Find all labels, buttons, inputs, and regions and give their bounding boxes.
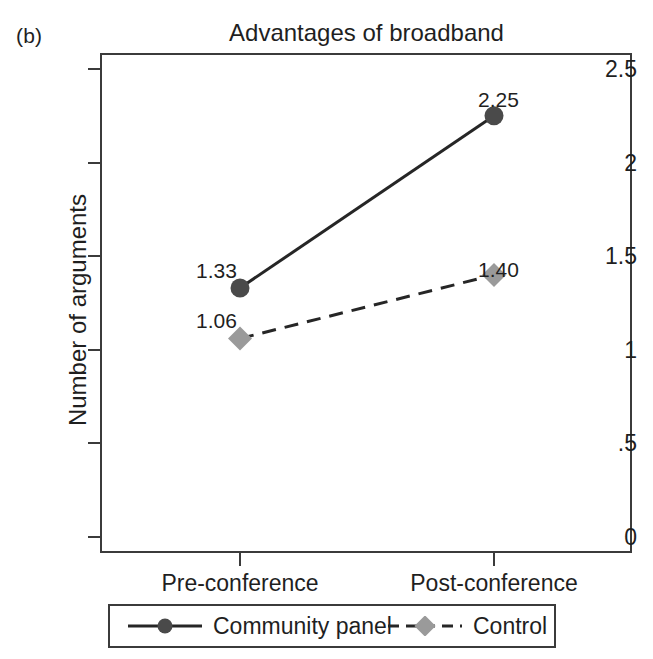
y-tick-label-5: 2.5 <box>549 56 653 83</box>
point-label-community-pre: 1.33 <box>196 259 237 283</box>
panel-label: (b) <box>16 24 42 48</box>
x-tick-mark-0 <box>239 553 241 566</box>
y-tick-label-4: 2 <box>549 150 653 177</box>
y-tick-label-2: 1 <box>549 337 653 364</box>
legend-label-community-panel: Community panel <box>213 613 392 640</box>
legend-label-control: Control <box>473 613 547 640</box>
point-label-community-post: 2.25 <box>478 88 519 112</box>
y-tick-mark-4 <box>88 162 100 164</box>
y-tick-mark-2 <box>88 349 100 351</box>
x-tick-label-1: Post-conference <box>410 570 577 597</box>
y-tick-mark-0 <box>88 536 100 538</box>
chart-figure: (b) Advantages of broadband Number of ar… <box>0 0 653 659</box>
x-tick-label-0: Pre-conference <box>161 570 318 597</box>
legend-entry-control: Control <box>386 606 547 646</box>
y-tick-mark-3 <box>88 255 100 257</box>
y-tick-label-3: 1.5 <box>549 243 653 270</box>
y-tick-label-1: .5 <box>549 430 653 457</box>
chart-legend: Community panel Control <box>108 604 556 648</box>
y-tick-mark-1 <box>88 442 100 444</box>
y-axis-title: Number of arguments <box>64 60 92 560</box>
plot-area <box>100 53 632 553</box>
chart-title: Advantages of broadband <box>100 19 633 47</box>
legend-entry-community-panel: Community panel <box>126 606 392 646</box>
legend-sample-dashed-diamond-icon <box>386 616 464 636</box>
y-tick-label-0: 0 <box>549 524 653 551</box>
y-tick-mark-5 <box>88 68 100 70</box>
point-label-control-post: 1.40 <box>478 258 519 282</box>
x-tick-mark-1 <box>493 553 495 566</box>
legend-sample-solid-circle-icon <box>126 616 204 636</box>
point-label-control-pre: 1.06 <box>196 309 237 333</box>
